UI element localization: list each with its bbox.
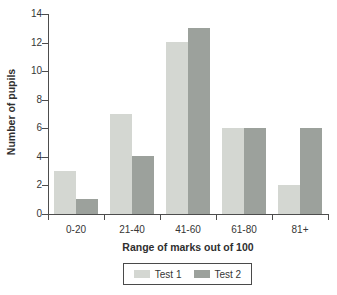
y-tick-mark xyxy=(42,100,48,101)
legend-item-test2: Test 2 xyxy=(194,269,242,280)
x-tick-mark xyxy=(216,215,217,220)
y-tick-label: 6 xyxy=(12,123,42,133)
bar-test1-81+ xyxy=(278,185,300,214)
x-category-label: 81+ xyxy=(292,224,309,236)
legend-label-test1: Test 1 xyxy=(155,269,182,280)
y-tick-mark xyxy=(42,157,48,158)
y-axis-line xyxy=(48,14,49,215)
y-tick-label: 8 xyxy=(12,95,42,105)
y-tick-label: 10 xyxy=(12,66,42,76)
x-tick-mark xyxy=(48,215,49,220)
y-tick-mark xyxy=(42,128,48,129)
x-axis-title: Range of marks out of 100 xyxy=(48,241,328,253)
x-category-label: 61-80 xyxy=(231,224,257,236)
y-tick-label: 4 xyxy=(12,152,42,162)
x-category-label: 41-60 xyxy=(175,224,201,236)
bar-test1-0-20 xyxy=(54,171,76,214)
y-tick-mark xyxy=(42,43,48,44)
bar-chart: Number of pupils 024681012140-2021-4041-… xyxy=(0,0,337,295)
legend-swatch-test1 xyxy=(134,270,150,278)
plot-area: 024681012140-2021-4041-6061-8081+ xyxy=(48,14,328,214)
bar-test2-61-80 xyxy=(244,128,266,214)
bar-test2-0-20 xyxy=(76,199,98,213)
bar-test1-61-80 xyxy=(222,128,244,214)
x-axis-line xyxy=(48,214,329,215)
y-tick-label: 0 xyxy=(12,209,42,219)
bar-test2-41-60 xyxy=(188,28,210,214)
x-tick-mark xyxy=(160,215,161,220)
x-category-label: 0-20 xyxy=(66,224,86,236)
x-tick-mark xyxy=(104,215,105,220)
bar-test1-21-40 xyxy=(110,114,132,214)
legend-swatch-test2 xyxy=(194,270,210,278)
legend: Test 1 Test 2 xyxy=(123,263,252,285)
legend-label-test2: Test 2 xyxy=(215,269,242,280)
y-tick-label: 12 xyxy=(12,38,42,48)
bar-test2-21-40 xyxy=(132,156,154,213)
bar-test2-81+ xyxy=(300,128,322,214)
y-tick-label: 2 xyxy=(12,180,42,190)
bar-test1-41-60 xyxy=(166,42,188,213)
y-tick-mark xyxy=(42,71,48,72)
legend-item-test1: Test 1 xyxy=(134,269,182,280)
y-axis-title: Number of pupils xyxy=(5,69,17,155)
y-tick-mark xyxy=(42,14,48,15)
y-tick-mark xyxy=(42,185,48,186)
y-tick-label: 14 xyxy=(12,9,42,19)
x-tick-mark xyxy=(272,215,273,220)
x-category-label: 21-40 xyxy=(119,224,145,236)
x-tick-mark xyxy=(328,215,329,220)
